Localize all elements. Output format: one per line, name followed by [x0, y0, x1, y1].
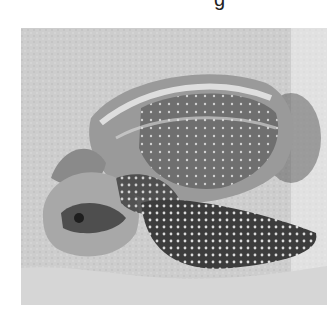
turtle-illustration [21, 28, 327, 305]
cropped-caption-text: g [214, 0, 225, 11]
turtle-photo [21, 28, 327, 305]
